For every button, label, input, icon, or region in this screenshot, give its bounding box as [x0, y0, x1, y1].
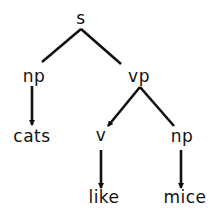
edge-s-vp [81, 29, 121, 64]
tree-node-np-object: np [171, 128, 194, 145]
edge-vp-v [108, 87, 140, 126]
tree-node-vp: vp [128, 68, 150, 85]
tree-leaf-mice: mice [163, 189, 206, 206]
tree-leaf-cats: cats [13, 128, 50, 145]
tree-leaf-like: like [88, 189, 119, 206]
tree-node-np-subject: np [23, 68, 46, 85]
tree-node-v: v [96, 127, 107, 144]
tree-node-s: s [76, 10, 85, 27]
edge-vp-np2 [140, 87, 174, 126]
edge-s-np1 [42, 29, 81, 62]
